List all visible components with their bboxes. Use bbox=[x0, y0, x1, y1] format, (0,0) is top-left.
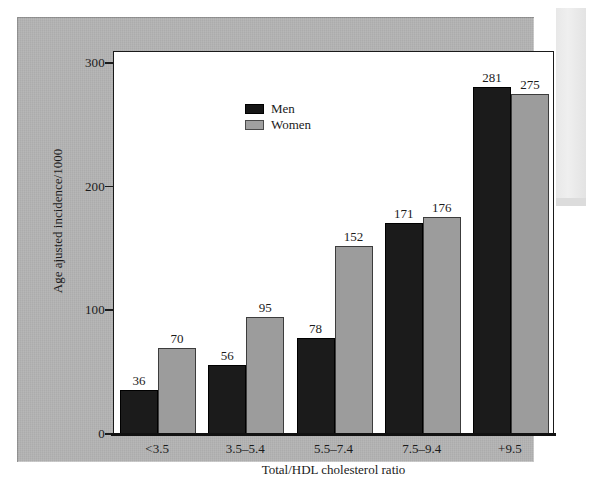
bar-value-label: 275 bbox=[505, 77, 555, 93]
bars-layer: 3670569578152171176281275 bbox=[114, 52, 553, 434]
bar-men-2 bbox=[297, 338, 335, 434]
y-tick-label: 0 bbox=[65, 426, 105, 442]
y-tick-label: 100 bbox=[65, 302, 105, 318]
figure-panel: 0100200300 Age ajusted incidence/1000 36… bbox=[17, 17, 534, 462]
bar-women-2 bbox=[335, 246, 373, 434]
legend-item-men[interactable]: Men bbox=[245, 102, 311, 115]
bar-men-3 bbox=[385, 223, 423, 434]
x-tick-label-1: 3.5–5.4 bbox=[200, 441, 290, 457]
x-axis-title: Total/HDL cholesterol ratio bbox=[113, 462, 554, 477]
y-tick-label: 300 bbox=[65, 55, 105, 71]
x-tick-label-4: +9.5 bbox=[465, 441, 555, 457]
bar-women-0 bbox=[158, 348, 196, 434]
bar-value-label: 70 bbox=[152, 331, 202, 347]
bar-value-label: 56 bbox=[202, 348, 252, 364]
legend-label: Women bbox=[271, 118, 311, 131]
page-edge-strip bbox=[556, 8, 586, 198]
y-tick-300: 300 bbox=[57, 55, 105, 71]
bar-value-label: 36 bbox=[114, 373, 164, 389]
x-tick-label-3: 7.5–9.4 bbox=[377, 441, 467, 457]
y-axis-title: Age ajusted incidence/1000 bbox=[50, 121, 66, 321]
chart-legend: MenWomen bbox=[245, 102, 311, 131]
bar-men-4 bbox=[473, 87, 511, 434]
x-tick-label-2: 5.5–7.4 bbox=[289, 441, 379, 457]
x-axis-line bbox=[111, 433, 556, 436]
bar-value-label: 95 bbox=[240, 300, 290, 316]
legend-label: Men bbox=[271, 102, 295, 115]
bar-women-4 bbox=[511, 94, 549, 434]
plot-area: 3670569578152171176281275 MenWomen bbox=[113, 51, 554, 434]
y-tick-0: 0 bbox=[57, 426, 105, 442]
legend-item-women[interactable]: Women bbox=[245, 118, 311, 131]
men-swatch-icon bbox=[245, 104, 264, 114]
women-swatch-icon bbox=[245, 120, 264, 130]
bar-women-1 bbox=[246, 317, 284, 434]
y-tick-label: 200 bbox=[65, 179, 105, 195]
bar-value-label: 176 bbox=[417, 200, 467, 216]
bar-value-label: 78 bbox=[291, 321, 341, 337]
bar-value-label: 152 bbox=[329, 229, 379, 245]
bar-men-0 bbox=[120, 390, 158, 434]
bar-women-3 bbox=[423, 217, 461, 434]
bar-men-1 bbox=[208, 365, 246, 434]
x-tick-label-0: <3.5 bbox=[112, 441, 202, 457]
x-axis-tick-labels: <3.53.5–5.45.5–7.47.5–9.4+9.5 bbox=[17, 441, 534, 461]
page-edge-strip-lower bbox=[556, 198, 586, 206]
